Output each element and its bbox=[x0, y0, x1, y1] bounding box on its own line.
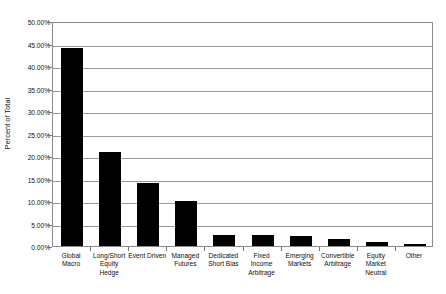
y-axis-tick-labels: 50.00%45.00%40.00%35.00%30.00%25.00%20.0… bbox=[14, 0, 50, 294]
x-axis-tick-mark bbox=[357, 247, 358, 251]
bar bbox=[99, 152, 121, 247]
y-axis-tick-label: 25.00% bbox=[14, 131, 50, 138]
y-axis-tick-label: 10.00% bbox=[14, 199, 50, 206]
y-axis-tick-label: 15.00% bbox=[14, 176, 50, 183]
y-axis-tick-label: 50.00% bbox=[14, 19, 50, 26]
x-axis-category-label: Long/Short Equity Hedge bbox=[90, 252, 128, 277]
y-axis-tick-label: 5.00% bbox=[14, 221, 50, 228]
bar bbox=[290, 236, 312, 246]
x-axis-tick-mark bbox=[395, 247, 396, 251]
x-axis-tick-mark bbox=[319, 247, 320, 251]
x-axis-category-label: Event Driven bbox=[128, 252, 166, 260]
y-axis-tick-mark bbox=[48, 247, 52, 248]
y-axis-title-label: Percent of Total bbox=[4, 98, 13, 149]
y-axis-tick-mark bbox=[48, 22, 52, 23]
bar bbox=[404, 244, 426, 246]
x-axis-tick-mark bbox=[281, 247, 282, 251]
x-axis-category-label: Global Macro bbox=[52, 252, 90, 269]
y-axis-tick-label: 30.00% bbox=[14, 109, 50, 116]
plot-area bbox=[52, 22, 433, 247]
y-axis-tick-mark bbox=[48, 225, 52, 226]
x-axis-category-label: Emerging Markets bbox=[281, 252, 319, 269]
x-axis-category-label: Managed Futures bbox=[166, 252, 204, 269]
bar bbox=[175, 201, 197, 246]
x-axis-category-label: Dedicated Short Bias bbox=[204, 252, 242, 269]
y-axis-tick-mark bbox=[48, 112, 52, 113]
bar bbox=[252, 235, 274, 246]
x-axis-category-label: Fixed Income Arbitrage bbox=[243, 252, 281, 277]
x-axis-tick-mark bbox=[243, 247, 244, 251]
bar bbox=[213, 235, 235, 246]
x-axis-tick-mark bbox=[204, 247, 205, 251]
x-axis-category-label: Equity Market Neutral bbox=[357, 252, 395, 277]
bar-chart: Percent of Total 50.00%45.00%40.00%35.00… bbox=[0, 0, 446, 294]
y-axis-tick-mark bbox=[48, 90, 52, 91]
bar bbox=[328, 239, 350, 246]
y-axis-tick-label: 45.00% bbox=[14, 41, 50, 48]
x-axis-category-label: Convertible Arbitrage bbox=[319, 252, 357, 269]
bar bbox=[137, 183, 159, 246]
x-axis-tick-mark bbox=[166, 247, 167, 251]
bars-group bbox=[53, 23, 432, 246]
x-axis-category-label: Other bbox=[395, 252, 433, 260]
y-axis-tick-mark bbox=[48, 157, 52, 158]
y-axis-tick-mark bbox=[48, 67, 52, 68]
bar bbox=[366, 242, 388, 246]
x-axis-tick-mark bbox=[90, 247, 91, 251]
x-axis-tick-labels: Global MacroLong/Short Equity HedgeEvent… bbox=[52, 252, 433, 294]
bar bbox=[61, 48, 83, 246]
y-axis-tick-mark bbox=[48, 202, 52, 203]
y-axis-tick-mark bbox=[48, 45, 52, 46]
y-axis-tick-label: 0.00% bbox=[14, 244, 50, 251]
y-axis-tick-label: 20.00% bbox=[14, 154, 50, 161]
y-axis-tick-mark bbox=[48, 180, 52, 181]
y-axis-tick-label: 40.00% bbox=[14, 64, 50, 71]
y-axis-tick-label: 35.00% bbox=[14, 86, 50, 93]
x-axis-tick-mark bbox=[128, 247, 129, 251]
y-axis-tick-mark bbox=[48, 135, 52, 136]
